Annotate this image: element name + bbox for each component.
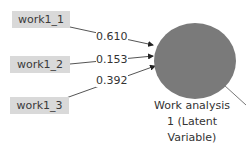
latent-variable-label: Work analysis 1 (Latent Variable): [146, 98, 238, 146]
indicator-work1-3[interactable]: work1_3: [10, 97, 69, 114]
indicator-work1-2[interactable]: work1_2: [10, 56, 70, 73]
weight-work1-2: 0.153: [96, 54, 128, 66]
indicator-work1-1[interactable]: work1_1: [12, 11, 70, 28]
latent-variable-node: [154, 23, 236, 99]
weight-work1-3: 0.392: [96, 75, 128, 87]
weight-work1-1: 0.610: [96, 31, 128, 43]
latent-label-line3: Variable): [146, 130, 238, 146]
latent-label-line2: 1 (Latent: [146, 114, 238, 130]
latent-label-line1: Work analysis: [146, 98, 238, 114]
